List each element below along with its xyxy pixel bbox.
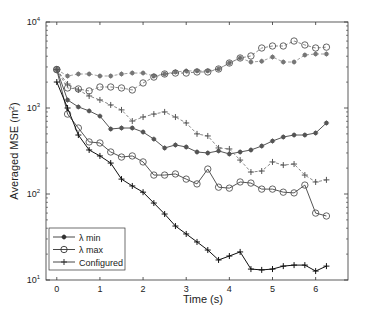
plus-marker [291, 262, 297, 268]
plus-marker [108, 160, 114, 166]
plus-marker [140, 114, 146, 120]
x-tick-label: 5 [270, 284, 275, 294]
series-max [54, 66, 330, 219]
y-axis-label-tail: ) [8, 102, 20, 106]
y-axis-label: Averaged MSE (m2) [8, 102, 20, 199]
plus-marker [97, 153, 103, 159]
plus-marker [119, 176, 125, 182]
y-tick-label: 101 [27, 274, 41, 285]
legend-label: λ max [79, 245, 104, 255]
series-max-dashed [54, 38, 330, 94]
plus-marker [270, 159, 276, 165]
plus-marker [280, 263, 286, 269]
x-axis-label: Time (s) [183, 293, 223, 305]
plus-marker [75, 87, 81, 93]
chart-container: 0123456101102103104 λ minλ maxConfigured… [0, 0, 365, 317]
series-min [54, 67, 329, 157]
plus-marker [162, 109, 168, 115]
y-axis-label-base: Averaged MSE (m [8, 110, 20, 200]
plus-marker [108, 102, 114, 108]
plus-marker [313, 179, 319, 185]
series-min-dashed [54, 51, 329, 79]
line-chart: 0123456101102103104 λ minλ maxConfigured… [0, 0, 365, 317]
x-tick-label: 2 [141, 284, 146, 294]
plus-marker [248, 266, 254, 272]
plus-marker [129, 183, 135, 189]
y-tick-label: 104 [27, 16, 41, 27]
series-line [57, 41, 327, 91]
y-tick-label: 102 [27, 188, 41, 199]
plus-marker [313, 268, 319, 274]
legend-label: λ min [79, 233, 101, 243]
legend: λ minλ maxConfigured [49, 228, 125, 270]
plus-marker [270, 266, 276, 272]
plus-marker [226, 253, 232, 259]
plus-marker [323, 177, 329, 183]
x-tick-label: 1 [97, 284, 102, 294]
plus-marker [97, 97, 103, 103]
y-tick-label: 103 [27, 102, 41, 113]
plus-marker [194, 131, 200, 137]
plus-marker [151, 111, 157, 117]
series-configured-dashed [54, 67, 330, 185]
plus-marker [172, 114, 178, 120]
legend-label: Configured [79, 258, 123, 268]
plus-marker [323, 263, 329, 269]
x-tick-label: 4 [227, 284, 232, 294]
x-tick-label: 0 [54, 284, 59, 294]
plus-marker [302, 262, 308, 268]
plus-marker [259, 267, 265, 273]
circle-marker [248, 53, 254, 59]
x-tick-label: 6 [313, 284, 318, 294]
plus-marker [237, 249, 243, 255]
plus-marker [280, 162, 286, 168]
plus-marker [183, 120, 189, 126]
plus-marker [248, 169, 254, 175]
